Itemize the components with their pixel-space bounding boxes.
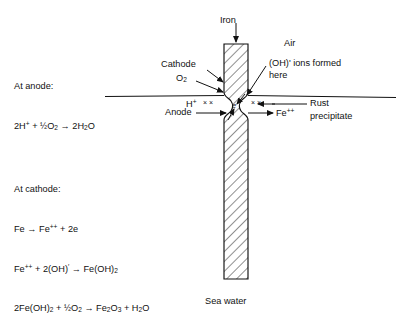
anode-equation-1: 2H+ + ½O2 → 2H2O (14, 119, 95, 133)
electron-marks-right: × × (251, 99, 261, 108)
air-label: Air (284, 38, 295, 49)
sea-water-label: Sea water (205, 296, 246, 307)
anode-heading: At anode: (14, 80, 95, 93)
cathode-leader-arrow (207, 70, 223, 82)
oxygen-leader-arrow (196, 81, 223, 92)
ferrous-ion-label: Fe++ (276, 107, 294, 119)
iron-label: Iron (220, 15, 236, 26)
cathode-label: Cathode (161, 59, 196, 70)
rust-label-line2: precipitate (310, 111, 352, 122)
oh-ions-label-line1: (OH)' ions formed (269, 58, 341, 69)
cathode-heading: At cathode: (14, 183, 149, 196)
oh-ions-label-line2: here (269, 70, 287, 81)
anode-block: At anode: 2H+ + ½O2 → 2H2O (14, 54, 95, 159)
anode-label: Anode (165, 107, 192, 118)
cathode-equation-2: Fe++ + 2(OH)′ → Fe(OH)2 (14, 262, 149, 276)
cathode-block: At cathode: Fe → Fe++ + 2e Fe++ + 2(OH)′… (14, 157, 149, 320)
electron-marks-left: × × (203, 99, 213, 108)
diagram-canvas: Iron Air Cathode O2 (OH)' ions formed he… (0, 0, 406, 320)
electron-label: e (232, 101, 236, 110)
cathode-equation-1: Fe → Fe++ + 2e (14, 222, 149, 236)
iron-bar (224, 44, 248, 279)
rust-label-line1: Rust (310, 98, 329, 109)
cathode-equation-3: 2Fe(OH)2 + ½O2 → Fe2O3 + H2O (14, 302, 149, 315)
oxygen-label: O2 (176, 73, 187, 85)
oh-ions-leader-arrow (247, 66, 266, 95)
waterline (105, 96, 396, 98)
